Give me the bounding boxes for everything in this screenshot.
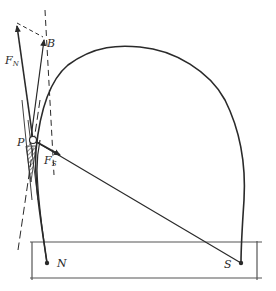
label-point-s: S xyxy=(224,259,232,270)
dashed-parallelogram-top xyxy=(17,23,43,37)
point-n-marker xyxy=(45,261,49,265)
label-force-fn: FN xyxy=(5,55,19,68)
label-fs-sub: S xyxy=(52,160,57,168)
arch-curve xyxy=(36,46,245,263)
label-point-p: P xyxy=(17,137,24,148)
label-point-n: N xyxy=(57,258,67,269)
point-s-marker xyxy=(239,261,243,265)
force-diagram xyxy=(0,0,276,291)
label-force-fs: FS xyxy=(44,155,56,168)
force-fn-arrow xyxy=(17,26,33,140)
label-point-b: B xyxy=(47,38,55,49)
label-fn-main: F xyxy=(5,54,13,67)
label-fn-sub: N xyxy=(13,60,19,68)
line-p-to-s xyxy=(33,140,241,263)
point-p-marker xyxy=(30,137,37,144)
label-fs-main: F xyxy=(44,154,52,167)
